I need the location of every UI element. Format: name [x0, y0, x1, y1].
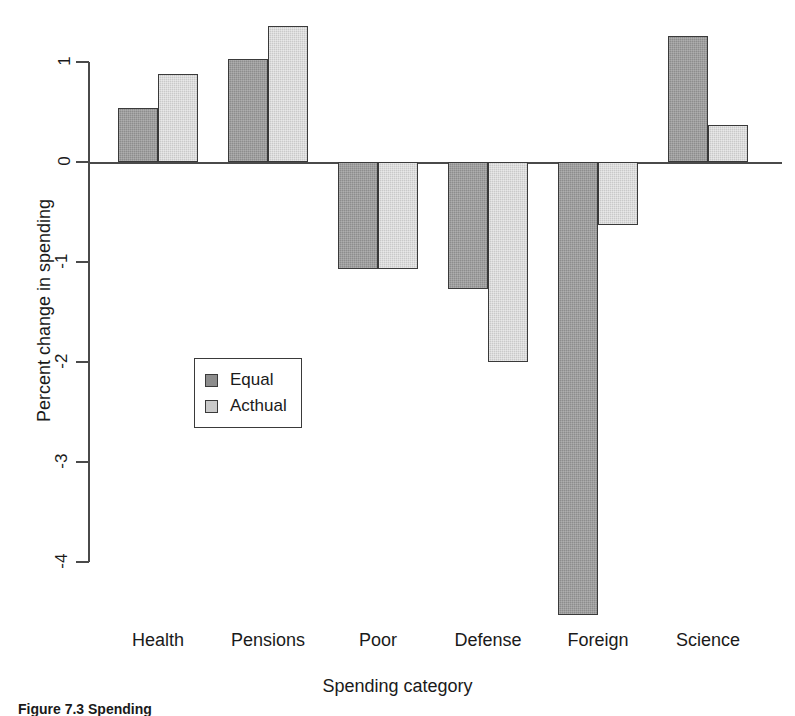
chart-legend: Equal Acthual	[194, 358, 302, 428]
bar-health-equal	[118, 108, 158, 162]
y-axis-tick	[76, 61, 89, 63]
y-axis-tick-label: 0	[0, 151, 70, 171]
figure-caption: Figure 7.3 Spending	[18, 701, 152, 716]
y-axis-tick	[76, 561, 89, 563]
y-axis-tick-label-text: -3	[52, 453, 72, 469]
bar-foreign-equal	[558, 162, 598, 615]
bar-pensions-actual	[268, 26, 308, 162]
y-axis-tick-label: 1	[0, 51, 70, 71]
legend-swatch-equal	[205, 374, 218, 387]
legend-label-equal: Equal	[230, 370, 273, 390]
y-axis-tick-label-text: -1	[52, 253, 72, 269]
legend-swatch-actual	[205, 400, 218, 413]
zero-baseline	[88, 162, 782, 164]
bar-science-actual	[708, 125, 748, 162]
y-axis-tick-label: -3	[0, 451, 70, 471]
bar-science-equal	[668, 36, 708, 162]
y-axis-tick-label-text: -4	[52, 553, 72, 569]
y-axis-tick	[76, 461, 89, 463]
y-axis-title: Percent change in spending	[34, 181, 55, 441]
bar-foreign-actual	[598, 162, 638, 225]
y-axis-tick-label-text: 1	[55, 56, 75, 66]
y-axis-tick-label: -1	[0, 251, 70, 271]
legend-item-actual: Acthual	[205, 393, 287, 419]
bar-poor-actual	[378, 162, 418, 269]
y-axis-tick-label-text: 0	[55, 156, 75, 166]
bar-defense-equal	[448, 162, 488, 289]
bar-poor-equal	[338, 162, 378, 269]
legend-label-actual: Acthual	[230, 396, 287, 416]
bar-pensions-equal	[228, 59, 268, 162]
y-axis-tick	[76, 261, 89, 263]
y-axis-tick-label-text: -2	[52, 353, 72, 369]
x-axis-title: Spending category	[0, 676, 795, 697]
x-axis-label-science: Science	[638, 630, 778, 651]
legend-item-equal: Equal	[205, 367, 287, 393]
bar-health-actual	[158, 74, 198, 162]
chart-plot-area: Percent change in spending 10-1-2-3-4 He…	[0, 0, 795, 660]
y-axis-tick	[76, 361, 89, 363]
y-axis-tick-label: -4	[0, 551, 70, 571]
y-axis-tick-label: -2	[0, 351, 70, 371]
bar-defense-actual	[488, 162, 528, 362]
figure-container: Percent change in spending 10-1-2-3-4 He…	[0, 0, 795, 716]
y-axis-spine	[88, 62, 90, 562]
